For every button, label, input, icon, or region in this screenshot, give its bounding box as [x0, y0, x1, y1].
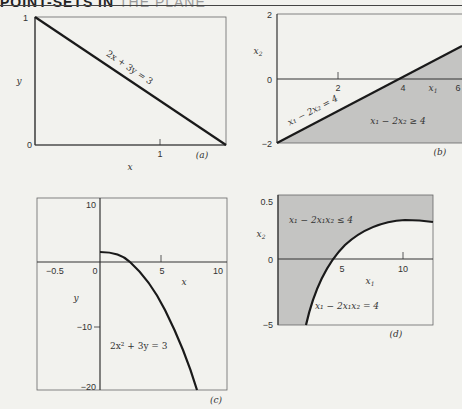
panel-b-y-tick-label-2: 2 [267, 10, 272, 20]
panel-c-y-label: y [72, 293, 79, 303]
panel-c-y-tick-label-minus20: −20 [81, 382, 96, 392]
panel-d-x-tick-label-5: 5 [339, 264, 344, 274]
panel-a-x-label: x [127, 162, 132, 172]
panel-b-x-tick-label-2: 2 [335, 83, 340, 93]
panel-b-label: (b) [434, 147, 447, 157]
panel-c-label: (c) [210, 395, 223, 405]
panel-d-y-label: x2 [257, 229, 266, 240]
panel-d-region-equation: x₁ − 2x₁x₂ ≤ 4 [289, 215, 353, 225]
panel-d-line-equation: x₁ − 2x₁x₂ = 4 [315, 301, 379, 311]
panel-a-line [35, 17, 226, 145]
panel-c-x-tick-label-5: 5 [159, 266, 164, 276]
panel-a-y-label: y [15, 76, 22, 86]
panel-d-y-tick-label-05: 0.5 [260, 197, 273, 207]
figure-canvas: 1 0 1 x y 2x + 3y = 3 (a) 2 0 −2 2 4 6 x… [0, 0, 462, 409]
panel-a-x-tick-label-1: 1 [157, 149, 162, 159]
panel-b-y-label: x2 [254, 46, 263, 57]
panel-d: 0.5 0 −5 5 10 x1 x2 x₁ − 2x₁x₂ ≤ 4 x₁ − … [257, 195, 433, 339]
panel-b: 2 0 −2 2 4 6 x1 x2 x₁ − 2x₂ = 4 x₁ − 2x₂… [254, 10, 462, 157]
panel-c-y-tick-label-10: 10 [86, 200, 96, 210]
panel-c-x-tick-label-0: 0 [92, 266, 97, 276]
panel-a-y-tick-label-1: 1 [23, 13, 28, 23]
panel-b-region-equation: x₁ − 2x₂ ≥ 4 [370, 116, 426, 126]
panel-d-y-tick-label-minus5: −5 [263, 320, 273, 330]
panel-a-label: (a) [196, 150, 209, 160]
panel-c-y-tick-label-minus10: −10 [77, 322, 92, 332]
panel-c: 10 −10 −20 −0.5 0 5 10 x y 2x² + 3y = 3 … [37, 198, 227, 405]
panel-d-x-tick-label-10: 10 [398, 264, 408, 274]
panel-c-x-tick-label-10: 10 [213, 266, 223, 276]
panel-b-y-tick-label-0: 0 [267, 75, 272, 85]
panel-b-y-tick-label-minus2: −2 [262, 139, 272, 149]
panel-c-equation: 2x² + 3y = 3 [110, 341, 168, 351]
panel-c-x-tick-label-minus05: −0.5 [46, 266, 64, 276]
panel-c-curve [100, 252, 197, 390]
panel-d-y-tick-label-0: 0 [268, 255, 273, 265]
panel-a-y-tick-label-0: 0 [27, 140, 32, 150]
panel-c-x-label: x [181, 277, 186, 287]
panel-a: 1 0 1 x y 2x + 3y = 3 (a) [15, 13, 226, 172]
panel-b-x-tick-label-4: 4 [400, 83, 405, 93]
panel-d-x-label: x1 [366, 276, 375, 287]
panel-d-label: (d) [390, 329, 403, 339]
panel-b-x-tick-label-6: 6 [455, 83, 460, 93]
panel-c-frame [37, 198, 227, 390]
